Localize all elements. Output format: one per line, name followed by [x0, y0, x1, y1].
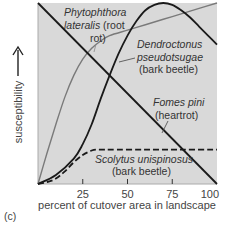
- label-fomes-line2: (heartrot): [155, 109, 198, 121]
- label-phytophthora-line2: lateralis (root: [64, 19, 125, 31]
- label-fomes-line1: Fomes pini: [153, 96, 205, 108]
- chart: 255075100 Phytophthora lateralis (root r…: [0, 0, 236, 226]
- label-phytophthora-line1: Phytophthora: [64, 6, 127, 18]
- label-phytophthora-line3: rot): [90, 32, 106, 44]
- label-scolytus-line1: Scolytus unispinosus: [95, 153, 194, 165]
- y-axis-label-group: susceptibility: [12, 80, 24, 143]
- y-axis-label: susceptibility: [12, 80, 24, 143]
- x-axis-label: percent of cutover area in landscape: [38, 199, 216, 211]
- label-scolytus-line2: (bark beetle): [112, 165, 171, 177]
- label-dendroctonus-line2: pseudotsugae: [136, 51, 203, 63]
- panel-label: (c): [4, 210, 16, 222]
- label-dendroctonus-line1: Dendroctonus: [137, 38, 203, 50]
- label-dendroctonus-line3: (bark beetle): [139, 63, 198, 75]
